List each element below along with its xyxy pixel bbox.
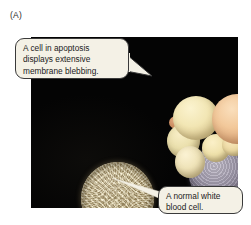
figure-panel-a: (A) A cell in apoptosis displays: [0, 0, 251, 225]
panel-label: (A): [10, 11, 22, 20]
callout-tail-normal: [112, 178, 162, 200]
callout-apoptosis-text: A cell in apoptosis displays extensive m…: [16, 39, 128, 81]
callout-apoptosis: A cell in apoptosis displays extensive m…: [15, 38, 129, 79]
callout-normal: A normal white blood cell.: [158, 186, 243, 214]
callout-normal-text: A normal white blood cell.: [159, 187, 242, 218]
membrane-bleb-lower-left: [175, 146, 205, 178]
callout-tail-apoptosis: [126, 52, 153, 78]
